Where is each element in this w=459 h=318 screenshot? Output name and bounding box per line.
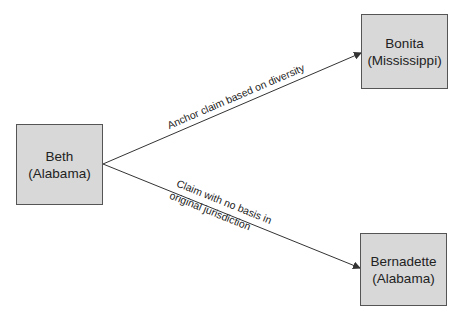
node-bernadette: Bernadette (Alabama) [360, 233, 447, 306]
node-state: (Alabama) [28, 165, 90, 182]
node-name: Bernadette [370, 253, 436, 270]
node-name: Beth [46, 148, 74, 165]
edge-beth-bonita [103, 53, 361, 164]
node-name: Bonita [385, 35, 423, 52]
node-state: (Mississippi) [367, 52, 441, 69]
node-state: (Alabama) [372, 270, 434, 287]
node-beth: Beth (Alabama) [16, 124, 103, 205]
node-bonita: Bonita (Mississippi) [361, 14, 448, 89]
